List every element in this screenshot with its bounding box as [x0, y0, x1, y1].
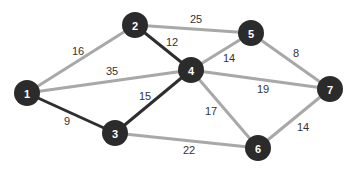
edge-weight-4-6: 17	[205, 105, 217, 117]
node-7: 7	[317, 76, 343, 102]
edge-weight-5-7: 8	[293, 47, 299, 59]
edge-weight-3-4: 15	[139, 90, 151, 102]
edge-2-5	[135, 25, 251, 33]
node-label: 7	[327, 84, 333, 96]
edge-weight-6-7: 14	[297, 121, 309, 133]
weighted-graph-diagram: 1635925121522141917814 1234567	[0, 0, 358, 170]
node-6: 6	[245, 135, 271, 161]
edge-weight-1-4: 35	[106, 65, 118, 77]
node-label: 2	[132, 20, 138, 32]
edge-6-7	[258, 89, 330, 148]
node-label: 3	[112, 128, 118, 140]
node-1: 1	[14, 80, 40, 106]
edge-weight-4-7: 19	[257, 83, 269, 95]
node-4: 4	[178, 57, 204, 83]
edge-weight-4-5: 14	[223, 52, 235, 64]
node-label: 6	[255, 143, 261, 155]
edge-weight-1-3: 9	[64, 115, 70, 127]
edge-weight-2-5: 25	[190, 13, 202, 25]
edge-weight-2-4: 12	[166, 36, 178, 48]
edges-layer	[27, 25, 330, 148]
edge-weight-3-6: 22	[183, 144, 195, 156]
node-2: 2	[122, 12, 148, 38]
node-3: 3	[102, 120, 128, 146]
edge-1-2	[27, 25, 135, 93]
node-5: 5	[238, 20, 264, 46]
node-label: 4	[188, 65, 195, 77]
edge-4-6	[191, 70, 258, 148]
node-label: 1	[24, 88, 30, 100]
edge-1-3	[27, 93, 115, 133]
node-label: 5	[248, 28, 254, 40]
edge-weight-1-2: 16	[72, 45, 84, 57]
